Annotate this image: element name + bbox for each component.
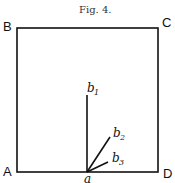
label-b3: b 3: [112, 151, 124, 167]
label-b2: b 2: [113, 126, 125, 142]
figure-4-diagram: Fig. 4. B C A D a b 1 b 2 b 3: [0, 0, 175, 183]
label-b1: b 1: [87, 81, 99, 97]
svg-text:2: 2: [119, 133, 125, 142]
svg-text:1: 1: [94, 88, 99, 97]
corner-label-a: A: [3, 164, 12, 179]
corner-label-d: D: [163, 166, 172, 181]
point-label-a: a: [84, 172, 91, 183]
corner-label-c: C: [162, 15, 171, 30]
svg-text:3: 3: [119, 158, 124, 167]
corner-label-b: B: [3, 19, 12, 34]
figure-caption: Fig. 4.: [79, 4, 111, 15]
